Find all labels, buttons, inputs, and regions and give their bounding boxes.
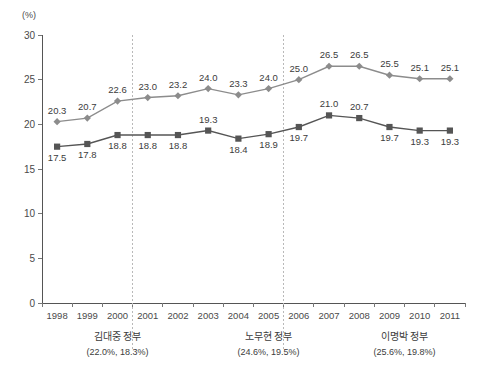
- x-tick-label: 2001: [137, 310, 158, 321]
- data-point-marker: [417, 127, 423, 133]
- x-tick-label: 2010: [409, 310, 430, 321]
- data-point-marker: [295, 76, 302, 83]
- data-point-marker: [114, 132, 120, 138]
- x-tick-label: 2011: [440, 310, 460, 321]
- data-label-upper: 22.6: [108, 84, 127, 95]
- data-point-marker: [356, 63, 363, 70]
- x-tick-label: 2008: [349, 310, 370, 321]
- data-label-upper: 20.7: [78, 101, 97, 112]
- data-point-marker: [325, 63, 332, 70]
- data-point-marker: [84, 141, 90, 147]
- data-point-marker: [144, 94, 151, 101]
- data-label-upper: 26.5: [320, 49, 339, 60]
- era-label-stats: (22.0%, 18.3%): [87, 347, 149, 357]
- y-tick-label: 10: [24, 208, 36, 219]
- era-label-name: 노무현 정부: [245, 331, 293, 342]
- data-point-marker: [84, 114, 91, 121]
- era-label-name: 김대중 정부: [94, 331, 142, 342]
- y-tick-label: 0: [29, 298, 35, 309]
- x-tick-label: 2004: [228, 310, 249, 321]
- data-point-marker: [296, 124, 302, 130]
- data-label-lower: 18.9: [259, 139, 278, 150]
- data-label-lower: 18.8: [139, 140, 158, 151]
- data-point-marker: [386, 72, 393, 79]
- era-label-stats: (24.6%, 19.5%): [238, 347, 300, 357]
- y-axis-unit-label: (%): [22, 10, 36, 20]
- data-point-marker: [356, 115, 362, 121]
- data-point-marker: [326, 112, 332, 118]
- data-label-upper: 24.0: [199, 72, 218, 83]
- data-point-marker: [174, 92, 181, 99]
- era-label-name: 이명박 정부: [381, 331, 429, 342]
- data-label-lower: 18.8: [169, 140, 188, 151]
- era-label-stats: (25.6%, 19.8%): [374, 347, 436, 357]
- data-label-upper: 24.0: [259, 72, 278, 83]
- data-label-upper: 25.5: [380, 58, 399, 69]
- data-label-lower: 20.7: [350, 101, 369, 112]
- data-label-lower: 19.3: [199, 114, 218, 125]
- data-label-upper: 25.0: [290, 63, 309, 74]
- data-label-lower: 19.3: [441, 136, 460, 147]
- data-label-lower: 18.4: [229, 144, 248, 155]
- data-label-lower: 18.8: [108, 140, 127, 151]
- data-label-lower: 19.7: [290, 132, 309, 143]
- data-label-lower: 19.3: [410, 136, 429, 147]
- x-tick-label: 2005: [258, 310, 279, 321]
- x-tick-label: 2000: [107, 310, 128, 321]
- y-tick-label: 25: [24, 74, 36, 85]
- data-point-marker: [235, 136, 241, 142]
- data-point-marker: [416, 75, 423, 82]
- data-label-upper: 23.2: [169, 79, 188, 90]
- data-point-marker: [205, 85, 212, 92]
- line-chart: (%)0510152025301998199920002001200220032…: [0, 0, 477, 369]
- data-label-lower: 17.5: [48, 152, 67, 163]
- data-point-marker: [54, 118, 61, 125]
- data-label-lower: 19.7: [380, 132, 399, 143]
- x-tick-label: 2007: [318, 310, 339, 321]
- data-label-upper: 20.3: [48, 105, 67, 116]
- data-label-upper: 26.5: [350, 49, 369, 60]
- data-point-marker: [54, 144, 60, 150]
- data-label-lower: 17.8: [78, 149, 97, 160]
- x-tick-label: 2002: [167, 310, 188, 321]
- data-point-marker: [145, 132, 151, 138]
- x-tick-label: 2003: [198, 310, 219, 321]
- data-point-marker: [265, 85, 272, 92]
- data-point-marker: [446, 75, 453, 82]
- x-tick-label: 1999: [77, 310, 98, 321]
- y-tick-label: 5: [29, 253, 35, 264]
- data-point-marker: [447, 127, 453, 133]
- data-label-upper: 25.1: [441, 62, 460, 73]
- data-point-marker: [205, 127, 211, 133]
- data-point-marker: [266, 131, 272, 137]
- data-point-marker: [175, 132, 181, 138]
- data-label-lower: 21.0: [320, 98, 339, 109]
- y-tick-label: 20: [24, 119, 36, 130]
- y-tick-label: 30: [24, 30, 36, 41]
- y-tick-label: 15: [24, 164, 36, 175]
- data-point-marker: [114, 98, 121, 105]
- data-label-upper: 23.0: [139, 81, 158, 92]
- data-label-upper: 23.3: [229, 78, 248, 89]
- x-tick-label: 1998: [47, 310, 68, 321]
- data-label-upper: 25.1: [410, 62, 429, 73]
- x-tick-label: 2009: [379, 310, 400, 321]
- data-point-marker: [386, 124, 392, 130]
- x-tick-label: 2006: [288, 310, 309, 321]
- chart-container: (%)0510152025301998199920002001200220032…: [0, 0, 477, 369]
- data-point-marker: [235, 91, 242, 98]
